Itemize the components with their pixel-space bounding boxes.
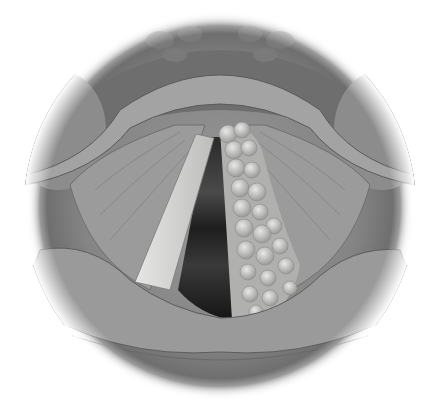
illustration-container <box>0 0 440 416</box>
vignette-edge <box>24 10 416 402</box>
larynx-illustration <box>0 0 440 416</box>
